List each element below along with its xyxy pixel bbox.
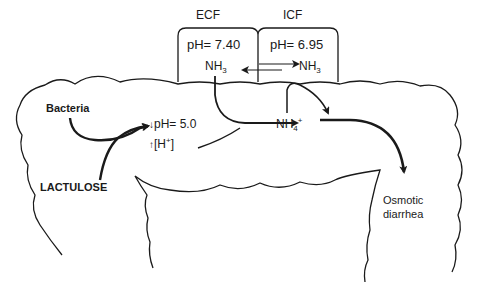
ecf-ph: pH= 7.40 bbox=[187, 38, 240, 51]
arrow-lactulose bbox=[100, 126, 148, 180]
icf-nh3: NH3 bbox=[299, 60, 321, 75]
ecf-title: ECF bbox=[196, 9, 220, 21]
bacteria-label: Bacteria bbox=[46, 103, 89, 114]
arrow-nh4-to-diarrhea bbox=[320, 120, 404, 172]
icf-ph: pH= 6.95 bbox=[270, 38, 323, 51]
ecf-nh3: NH3 bbox=[205, 60, 227, 75]
arrow-icf-to-colon bbox=[287, 83, 328, 113]
diagram-canvas bbox=[0, 0, 481, 285]
icf-title: ICF bbox=[283, 9, 302, 21]
ph-decrease-label: ↓pH= 5.0 bbox=[149, 118, 196, 130]
lactulose-label: LACTULOSE bbox=[40, 182, 107, 193]
h-increase-label: ↑[H+] bbox=[149, 137, 174, 150]
arrow-h-to-nh4 bbox=[198, 128, 240, 148]
ammonium-label: NH4+ bbox=[276, 117, 302, 133]
outcome-label: Osmotic diarrhea bbox=[383, 193, 423, 221]
